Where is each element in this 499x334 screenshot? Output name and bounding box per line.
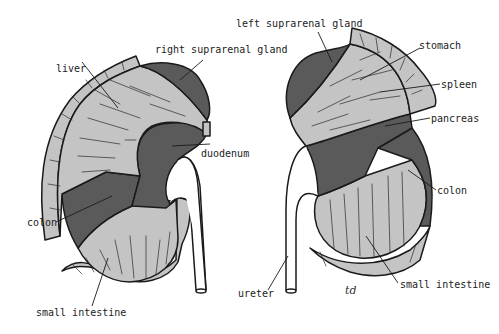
label-left-colon: colon — [437, 185, 467, 196]
right-liver-tab — [203, 122, 210, 136]
label-duodenum: duodenum — [201, 148, 249, 159]
kidney-diagram: liver right suprarenal gland duodenum co… — [0, 0, 499, 334]
artist-signature: td — [345, 284, 356, 297]
label-pancreas: pancreas — [431, 113, 479, 124]
label-right-colon: colon — [27, 217, 57, 228]
label-liver: liver — [56, 63, 86, 74]
label-left-suprarenal-gland: left suprarenal gland — [236, 18, 362, 29]
left-ureter — [286, 146, 318, 290]
label-ureter: ureter — [238, 288, 274, 299]
label-stomach: stomach — [419, 40, 461, 51]
label-spleen: spleen — [441, 79, 477, 90]
right-kidney — [42, 56, 210, 306]
label-right-small-intestine: small intestine — [36, 307, 126, 318]
left-kidney — [268, 28, 440, 293]
label-right-suprarenal-gland: right suprarenal gland — [155, 44, 287, 55]
label-left-small-intestine: small intestine — [400, 279, 490, 290]
